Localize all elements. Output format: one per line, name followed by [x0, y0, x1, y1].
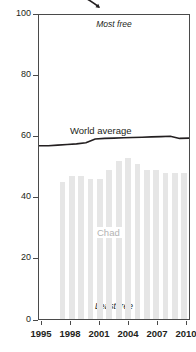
x-tick-mark [70, 321, 71, 325]
x-tick-mark [186, 321, 187, 325]
y-tick-mark [33, 320, 38, 321]
x-tick-label: 2004 [117, 328, 138, 339]
chart-container: 100 80 60 40 20 0 Most free Least free W… [0, 0, 196, 352]
x-tick-label: 2001 [88, 328, 109, 339]
x-tick-label: 2007 [146, 328, 167, 339]
x-tick-mark [128, 321, 129, 325]
line-series-world-average [39, 15, 190, 320]
arrow-icon [86, 0, 102, 8]
plot-area: Most free Least free World average Chad [38, 14, 190, 320]
series-label-chad: Chad [95, 227, 122, 238]
y-tick-label: 100 [16, 8, 31, 18]
y-tick-label: 80 [21, 69, 31, 79]
world-average-line [39, 136, 189, 145]
y-tick-label: 40 [21, 191, 31, 201]
y-tick-label: 60 [21, 130, 31, 140]
x-tick-label: 2010 [175, 328, 196, 339]
x-tick-label: 1998 [59, 328, 80, 339]
y-tick-label: 0 [26, 314, 31, 324]
y-tick-label: 20 [21, 252, 31, 262]
x-tick-mark [41, 321, 42, 325]
series-label-world-average: World average [69, 125, 133, 136]
x-tick-mark [99, 321, 100, 325]
x-tick-label: 1995 [30, 328, 51, 339]
x-tick-mark [157, 321, 158, 325]
